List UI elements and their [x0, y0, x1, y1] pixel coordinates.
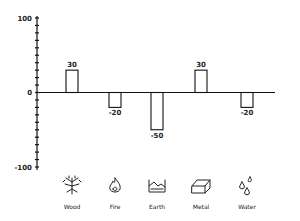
value-label: 30: [67, 61, 77, 69]
category-label: Fire: [110, 203, 121, 210]
axes: 1000-100: [14, 15, 275, 172]
metal-ingot-icon: [192, 180, 210, 193]
bar-metal: [195, 70, 207, 92]
value-label: -20: [241, 109, 254, 117]
category-label: Water: [238, 203, 256, 210]
category-label: Earth: [149, 203, 165, 210]
category-labels: WoodFireEarthMetalWater: [64, 203, 257, 210]
bar-earth: [151, 93, 163, 130]
bar-fire: [109, 93, 121, 108]
water-drops-icon: [240, 177, 252, 195]
category-icons: [63, 176, 251, 195]
bar-water: [241, 93, 253, 108]
category-label: Metal: [193, 203, 210, 210]
value-label: -50: [151, 132, 164, 140]
tree-icon: [63, 176, 81, 194]
value-label: 30: [196, 61, 206, 69]
flame-icon: [110, 178, 120, 192]
bar-wood: [66, 70, 78, 92]
bar-chart: 1000-100 30-20-5030-20 WoodFireEarthMeta…: [0, 0, 300, 221]
y-tick-label: -100: [14, 164, 32, 172]
value-label: -20: [109, 109, 122, 117]
earth-icon: [149, 180, 165, 192]
y-tick-label: 0: [27, 89, 32, 97]
category-label: Wood: [64, 203, 81, 210]
y-tick-label: 100: [17, 15, 32, 23]
bars: [66, 70, 253, 130]
